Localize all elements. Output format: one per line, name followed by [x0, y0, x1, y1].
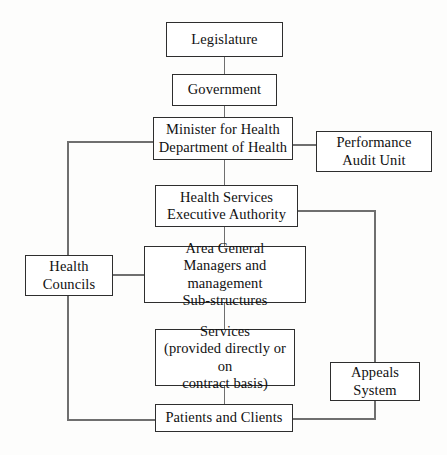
node-performance-audit-unit-label: Performance Audit Unit: [320, 134, 428, 168]
node-performance-audit-unit[interactable]: Performance Audit Unit: [316, 131, 432, 172]
node-health-services-executive-authority-label: Health Services Executive Authority: [159, 189, 294, 223]
node-health-councils[interactable]: Health Councils: [25, 255, 113, 296]
node-minister-for-health-label: Minister for Health Department of Health: [157, 121, 289, 155]
node-health-councils-label: Health Councils: [29, 258, 109, 292]
node-services-label: Services (provided directly or on contra…: [159, 323, 291, 391]
node-government[interactable]: Government: [172, 74, 277, 106]
node-appeals-system[interactable]: Appeals System: [330, 362, 420, 401]
node-health-services-executive-authority[interactable]: Health Services Executive Authority: [155, 185, 298, 227]
node-appeals-system-label: Appeals System: [334, 364, 416, 398]
node-legislature[interactable]: Legislature: [166, 22, 283, 57]
node-legislature-label: Legislature: [170, 31, 279, 48]
node-government-label: Government: [176, 81, 273, 98]
node-services[interactable]: Services (provided directly or on contra…: [155, 329, 295, 386]
node-area-general-managers-label: Area General Managers and management Sub…: [148, 240, 302, 308]
node-area-general-managers[interactable]: Area General Managers and management Sub…: [144, 246, 306, 303]
org-chart-diagram: Legislature Government Minister for Heal…: [0, 0, 447, 455]
node-patients-and-clients-label: Patients and Clients: [159, 409, 289, 426]
node-minister-for-health[interactable]: Minister for Health Department of Health: [153, 117, 293, 160]
node-patients-and-clients[interactable]: Patients and Clients: [155, 404, 293, 432]
